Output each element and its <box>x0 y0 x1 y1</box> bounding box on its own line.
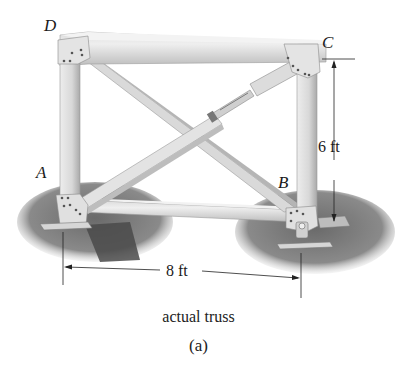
figure-caption: actual truss <box>0 308 397 326</box>
label-b: B <box>278 173 289 192</box>
truss-figure: D C A B 6 ft 8 ft actual truss (a) <box>0 0 397 380</box>
label-d: D <box>43 16 57 35</box>
label-c: C <box>322 33 334 52</box>
height-label: 6 ft <box>318 138 340 155</box>
figure-sublabel: (a) <box>0 336 397 356</box>
joint-d <box>58 36 90 64</box>
member-bc <box>297 58 317 216</box>
width-label: 8 ft <box>166 262 188 279</box>
member-ad <box>60 58 80 208</box>
label-a: A <box>35 163 47 182</box>
